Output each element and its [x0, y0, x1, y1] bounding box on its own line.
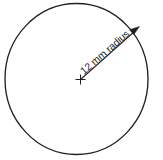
diagram-canvas: 12 mm radius [0, 0, 163, 160]
circle-radius-diagram: 12 mm radius [0, 0, 163, 160]
